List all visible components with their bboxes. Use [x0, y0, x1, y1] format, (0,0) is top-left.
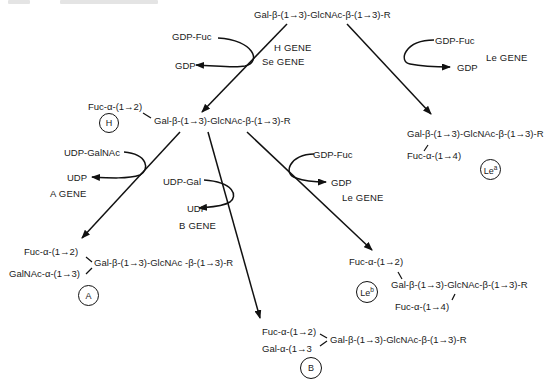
- link-a-galnac: [86, 268, 92, 274]
- b-step-donor: UDP-Gal: [163, 176, 201, 187]
- a-antigen-label: A: [85, 291, 91, 301]
- arrow-h-to-leb: [247, 132, 372, 250]
- lea-antigen-substituent: Fuc-α-(1→4): [407, 150, 461, 161]
- link-leb-fuc2: [398, 272, 402, 279]
- arrow-precursor-to-lea: [347, 24, 431, 114]
- a-step-product: UDP: [67, 172, 87, 183]
- h-step-donor: GDP-Fuc: [172, 31, 212, 42]
- h-antigen-label: H: [106, 118, 113, 128]
- h-antigen-badge: H: [99, 113, 119, 133]
- leb-antigen-badge: Leb: [356, 281, 378, 303]
- lea-antigen-label: Lea: [484, 164, 498, 176]
- blood-group-biosynthesis-diagram: Gal-β-(1→3)-GlcNAc-β-(1→3)-R GDP-Fuc GDP…: [0, 0, 546, 387]
- h-antigen-core: Gal-β-(1→3)-GlcNAc-β-(1→3)-R: [154, 115, 291, 126]
- b-antigen-label: B: [308, 363, 314, 373]
- leb-antigen-substituent-1: Fuc-α-(1→2): [349, 256, 403, 267]
- arrow-precursor-to-h: [202, 24, 287, 112]
- leb-gene-label: Le GENE: [342, 192, 384, 203]
- leb-antigen-substituent-2: Fuc-α-(1→4): [395, 301, 449, 312]
- link-b-gal: [320, 341, 327, 346]
- h-antigen-substituent: Fuc-α-(1→2): [88, 101, 142, 112]
- lea-antigen-badge: Lea: [480, 159, 501, 180]
- a-antigen-substituent-1: Fuc-α-(1→2): [24, 246, 78, 257]
- lea-step-donor: GDP-Fuc: [435, 35, 475, 46]
- leb-antigen-core: Gal-β-(1→3)-GlcNAc-β-(1→3)-R: [391, 279, 528, 290]
- h-gene-label: H GENE: [274, 42, 312, 53]
- link-b-fuc: [320, 334, 327, 338]
- a-antigen-badge: A: [78, 285, 99, 306]
- a-gene-label: A GENE: [50, 188, 87, 199]
- b-antigen-badge: B: [300, 357, 322, 379]
- a-antigen-substituent-2: GalNAc-α-(1→3): [9, 268, 80, 279]
- link-a-fuc: [86, 257, 92, 262]
- b-gene-label: B GENE: [179, 220, 216, 231]
- leb-step-product: GDP: [331, 177, 352, 188]
- lea-step-product: GDP: [457, 62, 478, 73]
- se-gene-label: Se GENE: [262, 56, 305, 67]
- precursor-structure: Gal-β-(1→3)-GlcNAc-β-(1→3)-R: [254, 9, 391, 20]
- b-antigen-substituent-1: Fuc-α-(1→2): [262, 326, 316, 337]
- link-h-fuc: [143, 113, 151, 118]
- leb-step-donor: GDP-Fuc: [313, 149, 353, 160]
- lea-antigen-core: Gal-β-(1→3)-GlcNAc-β-(1→3)-R: [407, 128, 544, 139]
- b-antigen-substituent-2: Gal-α-(1→3: [262, 343, 312, 354]
- a-antigen-core: Gal-β-(1→3)-GlcNAc -β-(1→3)-R: [94, 257, 233, 268]
- h-step-product: GDP: [175, 60, 196, 71]
- a-step-donor: UDP-GalNAc: [64, 147, 120, 158]
- leb-antigen-label: Leb: [360, 286, 374, 298]
- b-step-product: UDP: [187, 203, 207, 214]
- curve-h-step: [196, 38, 254, 67]
- lea-gene-label: Le GENE: [486, 52, 528, 63]
- link-leb-fuc4: [452, 294, 455, 300]
- b-antigen-core: Gal-β-(1→3)-GlcNAc-β-(1→3)-R: [330, 334, 467, 345]
